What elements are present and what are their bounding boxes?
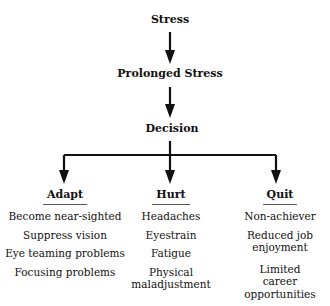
branch-item: Physical maladjustment [131,266,211,291]
branch-item: Focusing problems [5,266,125,279]
branch-item: Become near-sighted [5,210,125,223]
node-stress: Stress [151,13,189,26]
branch-adapt: Adapt Become near-sighted Suppress visio… [5,188,125,284]
branch-item: Eye teaming problems [5,247,125,260]
branch-quit: Quit Non-achiever Reduced job enjoyment … [241,188,319,306]
branch-item: Reduced job enjoyment [243,229,317,254]
branch-item: Suppress vision [5,229,125,242]
node-prolonged-stress: Prolonged Stress [117,67,222,80]
branch-item: Limited career opportunities [241,263,319,301]
branch-item: Fatigue [131,247,211,260]
node-decision: Decision [145,122,198,135]
branch-title: Adapt [43,188,87,205]
branch-item: Eyestrain [131,229,211,242]
branch-title: Quit [263,188,298,205]
branch-item: Headaches [131,210,211,223]
branch-title: Hurt [152,188,189,205]
branch-hurt: Hurt Headaches Eyestrain Fatigue Physica… [131,188,211,297]
branch-item: Non-achiever [241,210,319,223]
